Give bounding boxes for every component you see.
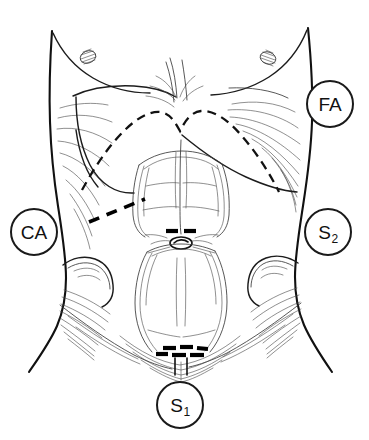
- label-s1-base: S: [170, 396, 183, 415]
- rectus-upper-right-border: [217, 164, 229, 237]
- label-fa[interactable]: FA: [306, 80, 354, 128]
- rectus-upper: [133, 140, 229, 237]
- label-s2-base: S: [318, 223, 331, 242]
- rectus-lower-left-border: [135, 252, 152, 352]
- label-s1[interactable]: S1: [156, 381, 204, 429]
- label-s2-subscript: 2: [332, 233, 339, 245]
- chest-contour-group: [53, 30, 307, 98]
- rectus-lower: [135, 244, 227, 352]
- costal-margin-left-solid: [76, 97, 134, 193]
- iliac-crest-left: [60, 257, 172, 369]
- flank-shading-right-upper: [228, 102, 300, 212]
- torso-left-edge: [29, 31, 66, 372]
- breast-fold-left: [53, 33, 150, 93]
- flank-shading-left-upper: [57, 103, 112, 249]
- label-ca[interactable]: CA: [10, 208, 58, 256]
- label-ca-text: CA: [21, 223, 47, 242]
- figure-root: FA CA S2 S1: [0, 0, 369, 440]
- hip-crest-right-outline: [248, 256, 298, 306]
- sternum-lines: [146, 58, 203, 107]
- inframammary-left: [73, 86, 176, 97]
- nipple-left: [78, 48, 97, 65]
- breast-fold-right: [211, 30, 307, 95]
- rectus-lower-right-border: [210, 251, 227, 352]
- linea-alba-upper: [180, 140, 181, 234]
- s1-incision-marking: [156, 347, 208, 355]
- label-fa-text: FA: [318, 95, 341, 114]
- label-s2-text: S2: [318, 223, 337, 242]
- label-s1-subscript: 1: [184, 406, 191, 418]
- label-s2[interactable]: S2: [304, 208, 352, 256]
- nipple-right: [258, 50, 277, 67]
- label-s1-text: S1: [170, 396, 189, 415]
- inframammary-right: [229, 88, 288, 98]
